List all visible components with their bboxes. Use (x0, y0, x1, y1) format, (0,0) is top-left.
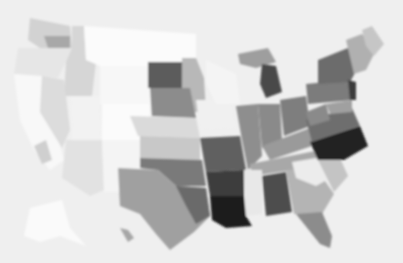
region-missouri (200, 136, 246, 172)
us-choropleth-map (0, 0, 403, 263)
map-canvas (0, 0, 403, 263)
region-utah (70, 96, 102, 140)
region-nebraska (130, 116, 200, 138)
region-arkansas (206, 170, 244, 196)
region-kansas (140, 136, 200, 160)
region-south-dakota (150, 88, 196, 118)
region-wyoming (100, 66, 150, 104)
region-mississippi (244, 170, 262, 216)
region-north-dakota (148, 62, 182, 88)
region-pennsylvania (306, 80, 352, 104)
region-iowa (196, 100, 236, 130)
region-washington-puget (44, 36, 70, 48)
